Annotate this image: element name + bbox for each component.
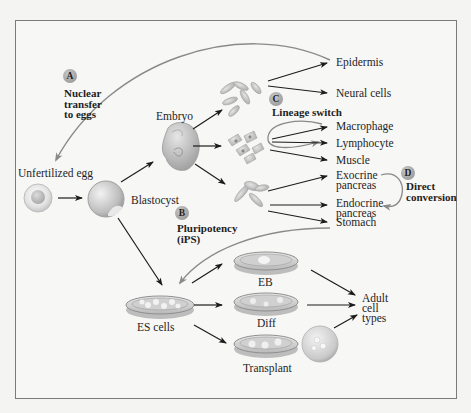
mesoderm-cells-icon xyxy=(228,131,264,164)
label-endocrine-pancreas: Endocrine pancreas xyxy=(336,198,383,218)
label-unfertilized-egg: Unfertilized egg xyxy=(18,168,93,179)
endoderm-cells-icon xyxy=(233,180,270,209)
label-neural-cells: Neural cells xyxy=(336,88,391,99)
annotation-d-text: Direct conversion xyxy=(406,181,457,202)
badge-d: D xyxy=(401,166,415,180)
es-cells-dish-icon xyxy=(126,296,194,319)
label-blastocyst: Blastocyst xyxy=(131,195,179,206)
label-stomach: Stomach xyxy=(336,217,376,228)
ectoderm-cells-icon xyxy=(219,80,263,118)
eb-dish-icon xyxy=(234,252,298,275)
label-diff: Diff xyxy=(257,318,276,329)
label-adult-cell-types: Adult cell types xyxy=(362,293,388,323)
annotation-a-text: Nuclear transfer to eggs xyxy=(64,88,102,120)
diagram-graphics xyxy=(0,0,471,413)
annotation-b-text: Pluripotency (iPS) xyxy=(177,223,238,244)
label-macrophage: Macrophage xyxy=(336,121,393,132)
diagram-stage: A B C D Nuclear transfer to eggs Pluripo… xyxy=(0,0,471,413)
label-lymphocyte: Lymphocyte xyxy=(336,138,394,149)
diff-dish-icon xyxy=(234,293,298,316)
unfertilized-egg-icon xyxy=(24,184,52,212)
transplant-dish-icon xyxy=(234,335,298,358)
transplant-sphere-icon xyxy=(302,326,338,362)
label-exocrine-pancreas: Exocrine pancreas xyxy=(336,170,378,190)
label-epidermis: Epidermis xyxy=(336,57,383,68)
label-transplant: Transplant xyxy=(243,363,292,374)
label-muscle: Muscle xyxy=(336,155,370,166)
label-es-cells: ES cells xyxy=(137,322,174,333)
badge-c: C xyxy=(269,92,283,106)
annotation-c-text: Lineage switch xyxy=(272,107,342,118)
label-embryo: Embryo xyxy=(156,111,193,122)
direct-conversion-curve xyxy=(381,174,402,207)
label-eb: EB xyxy=(258,277,273,288)
badge-a: A xyxy=(63,69,77,83)
badge-b: B xyxy=(175,206,189,220)
blastocyst-icon xyxy=(88,181,124,217)
